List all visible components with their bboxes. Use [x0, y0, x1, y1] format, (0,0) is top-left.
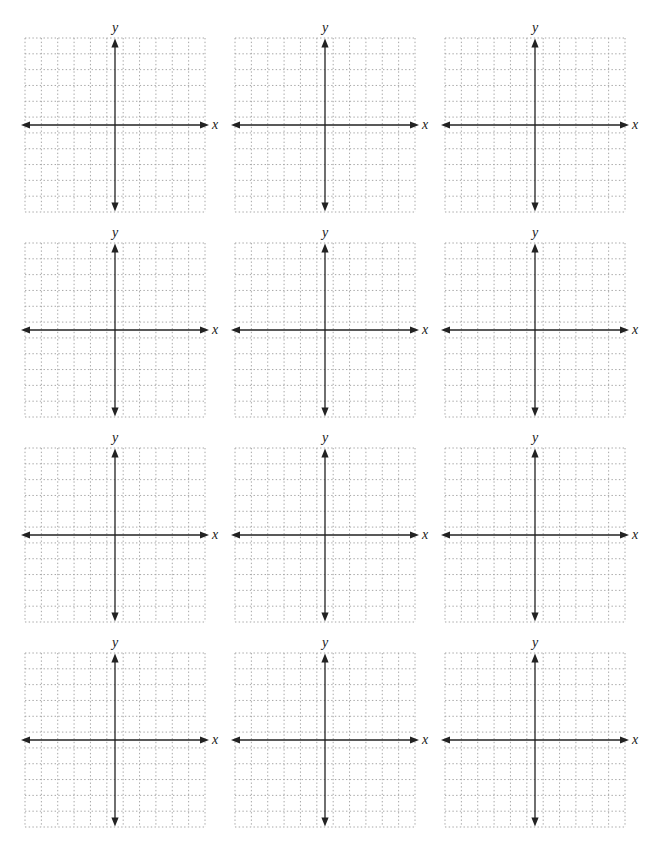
coordinate-plane: y x	[445, 653, 625, 827]
axes	[21, 449, 209, 622]
axes	[231, 244, 419, 417]
coordinate-plane: y x	[235, 653, 415, 827]
coordinate-plane: y x	[25, 448, 205, 622]
axes	[231, 39, 419, 212]
y-axis-label: y	[322, 226, 328, 240]
coordinate-grid	[235, 243, 415, 417]
worksheet-page: { "page": { "colors": { "paper": "#fffff…	[0, 0, 657, 851]
y-axis-down-arrowhead	[531, 408, 538, 417]
x-axis-label: x	[422, 323, 428, 337]
coordinate-plane: y x	[25, 243, 205, 417]
y-axis-down-arrowhead	[111, 818, 118, 827]
axes	[441, 449, 629, 622]
axes	[21, 39, 209, 212]
y-axis-up-arrowhead	[531, 654, 538, 663]
coordinate-grid	[445, 653, 625, 827]
y-axis-label: y	[322, 431, 328, 445]
x-axis-label: x	[632, 528, 638, 542]
y-axis-label: y	[532, 226, 538, 240]
coordinate-grid	[25, 653, 205, 827]
x-axis-label: x	[422, 118, 428, 132]
y-axis-up-arrowhead	[321, 654, 328, 663]
x-axis-label: x	[212, 528, 218, 542]
x-axis-label: x	[632, 118, 638, 132]
x-axis-label: x	[212, 323, 218, 337]
axes	[441, 39, 629, 212]
y-axis-label: y	[532, 431, 538, 445]
y-axis-down-arrowhead	[531, 818, 538, 827]
graph-paper-worksheet: y x y x	[0, 0, 657, 851]
coordinate-grid	[235, 448, 415, 622]
axes	[231, 449, 419, 622]
y-axis-down-arrowhead	[321, 408, 328, 417]
x-axis-label: x	[632, 323, 638, 337]
axes	[21, 654, 209, 827]
coordinate-plane: y x	[445, 38, 625, 212]
y-axis-down-arrowhead	[321, 613, 328, 622]
coordinate-plane: y x	[445, 243, 625, 417]
axes	[21, 244, 209, 417]
y-axis-down-arrowhead	[321, 203, 328, 212]
y-axis-down-arrowhead	[111, 203, 118, 212]
y-axis-label: y	[532, 636, 538, 650]
coordinate-grid	[25, 38, 205, 212]
coordinate-plane: y x	[445, 448, 625, 622]
coordinate-plane: y x	[25, 653, 205, 827]
y-axis-down-arrowhead	[531, 613, 538, 622]
y-axis-up-arrowhead	[531, 244, 538, 253]
axes	[441, 654, 629, 827]
y-axis-up-arrowhead	[321, 449, 328, 458]
x-axis-label: x	[212, 733, 218, 747]
y-axis-label: y	[112, 636, 118, 650]
coordinate-plane: y x	[25, 38, 205, 212]
y-axis-up-arrowhead	[531, 449, 538, 458]
y-axis-up-arrowhead	[111, 449, 118, 458]
axes	[231, 654, 419, 827]
y-axis-down-arrowhead	[531, 203, 538, 212]
y-axis-up-arrowhead	[321, 244, 328, 253]
y-axis-up-arrowhead	[531, 39, 538, 48]
y-axis-label: y	[532, 21, 538, 35]
y-axis-up-arrowhead	[111, 654, 118, 663]
x-axis-label: x	[422, 733, 428, 747]
y-axis-label: y	[112, 226, 118, 240]
coordinate-grid	[235, 38, 415, 212]
coordinate-grid	[25, 243, 205, 417]
y-axis-label: y	[322, 21, 328, 35]
coordinate-grid	[445, 38, 625, 212]
coordinate-grid	[445, 243, 625, 417]
y-axis-label: y	[112, 431, 118, 445]
x-axis-label: x	[422, 528, 428, 542]
coordinate-grid	[445, 448, 625, 622]
coordinate-grid	[235, 653, 415, 827]
y-axis-label: y	[322, 636, 328, 650]
coordinate-plane: y x	[235, 38, 415, 212]
y-axis-down-arrowhead	[111, 408, 118, 417]
y-axis-up-arrowhead	[111, 39, 118, 48]
coordinate-plane: y x	[235, 243, 415, 417]
coordinate-grid	[25, 448, 205, 622]
x-axis-label: x	[632, 733, 638, 747]
axes	[441, 244, 629, 417]
y-axis-up-arrowhead	[111, 244, 118, 253]
y-axis-label: y	[112, 21, 118, 35]
y-axis-down-arrowhead	[111, 613, 118, 622]
y-axis-up-arrowhead	[321, 39, 328, 48]
y-axis-down-arrowhead	[321, 818, 328, 827]
coordinate-plane: y x	[235, 448, 415, 622]
x-axis-label: x	[212, 118, 218, 132]
